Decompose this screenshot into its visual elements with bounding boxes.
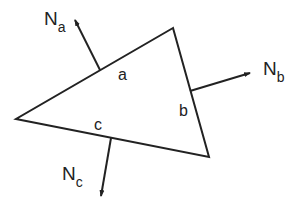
triangle xyxy=(16,28,209,157)
normal-label-na: Na xyxy=(44,8,66,35)
diagram-canvas: a b c Na Nb Nc xyxy=(0,0,299,203)
normal-label-nb: Nb xyxy=(263,58,285,85)
normal-label-nc-main: N xyxy=(62,163,76,184)
normal-label-nb-main: N xyxy=(263,58,277,79)
normal-label-nc: Nc xyxy=(62,163,83,190)
normal-label-nc-sub: c xyxy=(76,174,83,190)
triangle-normals-diagram: a b c Na Nb Nc xyxy=(0,0,299,203)
normal-label-na-main: N xyxy=(44,8,58,29)
normal-arrow-nc xyxy=(101,138,111,196)
side-label-a: a xyxy=(118,66,127,83)
side-label-b: b xyxy=(179,102,188,119)
normal-label-nb-sub: b xyxy=(277,69,285,85)
normal-arrow-nb xyxy=(190,73,250,91)
side-label-c: c xyxy=(94,116,102,133)
normal-label-na-sub: a xyxy=(58,19,66,35)
normal-arrow-na xyxy=(75,20,100,70)
